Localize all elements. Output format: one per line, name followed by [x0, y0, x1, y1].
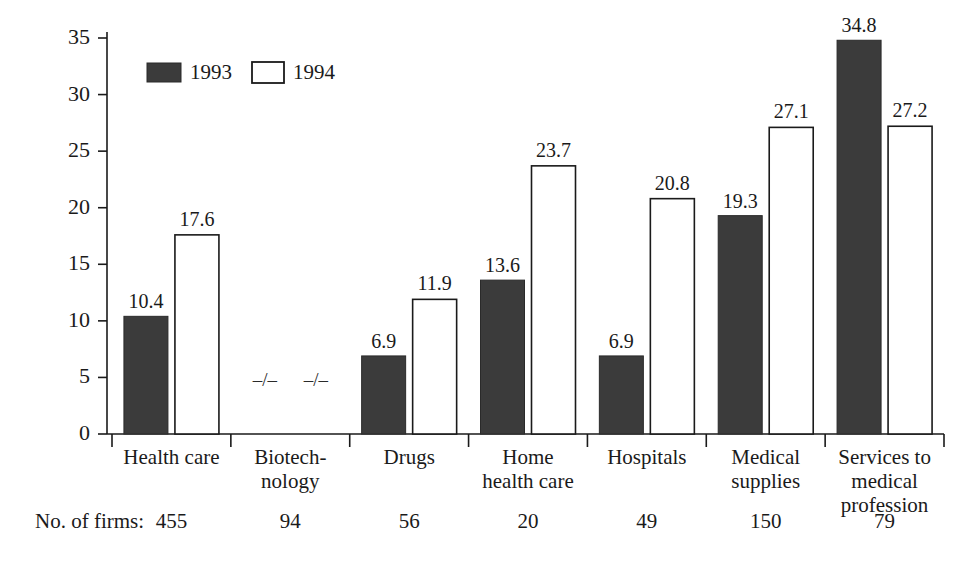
value-label-1994-2: 11.9 — [418, 272, 452, 294]
value-label-1993-3: 13.6 — [485, 254, 520, 276]
bar-1994-6 — [888, 126, 932, 434]
firms-value-1: 94 — [280, 509, 302, 533]
legend-label-1993: 1993 — [190, 60, 232, 84]
bar-1994-4 — [650, 199, 694, 434]
firms-caption-label: No. of firms: — [35, 509, 144, 533]
firms-value-5: 150 — [750, 509, 782, 533]
category-label-1: Biotech-nology — [254, 445, 326, 493]
value-label-1993-2: 6.9 — [371, 330, 396, 352]
bar-chart-figure: 05101520253035 10.417.6–/––/–6.911.913.6… — [0, 0, 980, 577]
category-label-4: Hospitals — [607, 445, 686, 469]
value-label-1994-6: 27.2 — [893, 99, 928, 121]
legend-swatch-1993 — [147, 63, 181, 82]
value-label-1994-5: 27.1 — [774, 100, 809, 122]
y-tick-label-0: 0 — [79, 420, 90, 445]
chart-legend: 1993 1994 — [147, 60, 336, 84]
chart-canvas: 05101520253035 10.417.6–/––/–6.911.913.6… — [0, 0, 980, 577]
bar-1993-5 — [718, 216, 762, 434]
category-label-6: Services tomedicalprofession — [838, 445, 931, 517]
bars-group — [124, 40, 932, 434]
y-axis-tick-labels: 05101520253035 — [68, 24, 90, 445]
value-label-1994-0: 17.6 — [179, 208, 214, 230]
value-label-1994-3: 23.7 — [536, 139, 571, 161]
value-label-1993-6: 34.8 — [842, 14, 877, 36]
bar-1993-4 — [599, 356, 643, 434]
y-tick-label-10: 10 — [68, 307, 90, 332]
value-label-1993-4: 6.9 — [609, 330, 634, 352]
y-tick-label-35: 35 — [68, 24, 90, 49]
category-label-3: Homehealth care — [482, 445, 574, 493]
y-tick-label-25: 25 — [68, 137, 90, 162]
missing-marker-1994-1: –/– — [303, 369, 329, 390]
y-tick-label-20: 20 — [68, 194, 90, 219]
bar-1994-3 — [532, 166, 576, 434]
y-tick-label-15: 15 — [68, 250, 90, 275]
y-tick-label-5: 5 — [79, 363, 90, 388]
bar-1993-3 — [481, 280, 525, 434]
bar-1993-6 — [837, 40, 881, 434]
firms-value-4: 49 — [636, 509, 657, 533]
value-label-1993-0: 10.4 — [128, 290, 163, 312]
legend-swatch-1994 — [252, 62, 284, 83]
firms-value-6: 79 — [874, 509, 895, 533]
firms-value-2: 56 — [399, 509, 420, 533]
axes-group — [107, 32, 944, 434]
y-axis-ticks — [98, 38, 107, 434]
value-label-1993-5: 19.3 — [723, 190, 758, 212]
firms-values-group: 4559456204915079 — [156, 509, 895, 533]
bar-1994-0 — [175, 235, 219, 434]
category-label-2: Drugs — [383, 445, 434, 469]
category-label-5: Medicalsupplies — [731, 445, 800, 493]
bar-1994-2 — [413, 299, 457, 434]
bar-1993-0 — [124, 316, 168, 434]
value-label-1994-4: 20.8 — [655, 172, 690, 194]
missing-marker-1993-1: –/– — [252, 369, 278, 390]
bar-1993-2 — [362, 356, 406, 434]
firms-value-3: 20 — [518, 509, 539, 533]
bar-1994-5 — [769, 127, 813, 434]
firms-value-0: 455 — [156, 509, 188, 533]
category-labels-group: Health careBiotech-nologyDrugsHomehealth… — [123, 445, 931, 517]
legend-label-1994: 1994 — [293, 60, 336, 84]
y-tick-label-30: 30 — [68, 81, 90, 106]
firms-row: No. of firms: 4559456204915079 — [35, 509, 895, 533]
category-label-0: Health care — [123, 445, 219, 469]
